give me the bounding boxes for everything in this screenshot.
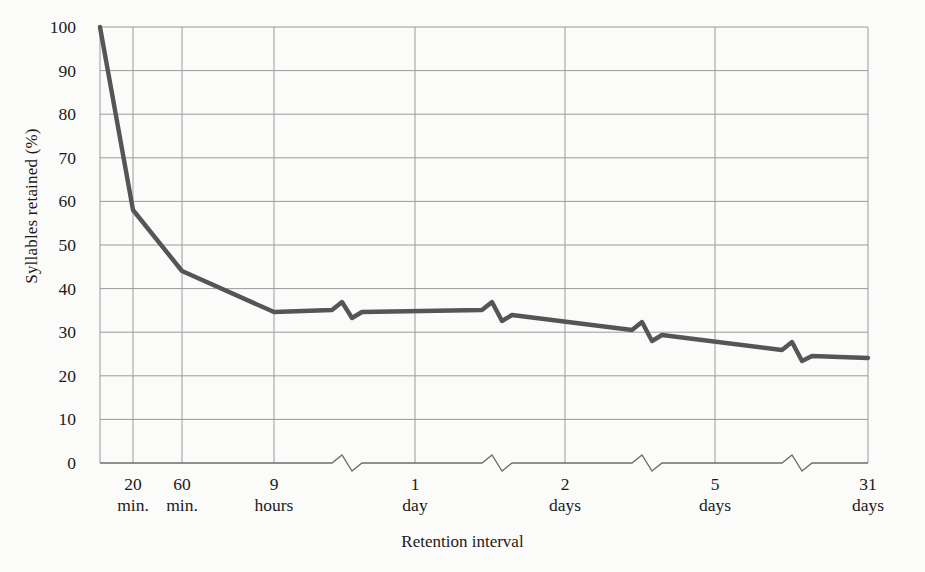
x-axis-with-breaks bbox=[100, 455, 868, 471]
x-tick-9-hours-unit: hours bbox=[230, 495, 318, 516]
x-tick-2-days-unit: days bbox=[525, 495, 605, 516]
x-tick-5-days: 5 days bbox=[675, 474, 755, 515]
x-tick-5-days-unit: days bbox=[675, 495, 755, 516]
horizontal-gridlines bbox=[100, 27, 868, 419]
x-tick-1-day-value: 1 bbox=[375, 474, 455, 495]
x-tick-31-days-unit: days bbox=[828, 495, 908, 516]
x-axis-title: Retention interval bbox=[0, 532, 925, 552]
x-tick-60-min-value: 60 bbox=[152, 474, 212, 495]
x-tick-60-min-unit: min. bbox=[152, 495, 212, 516]
x-tick-9-hours: 9 hours bbox=[230, 474, 318, 515]
x-tick-31-days: 31 days bbox=[828, 474, 908, 515]
x-tick-60-min: 60 min. bbox=[152, 474, 212, 515]
x-tick-9-hours-value: 9 bbox=[230, 474, 318, 495]
retention-curve bbox=[100, 27, 868, 361]
x-tick-31-days-value: 31 bbox=[828, 474, 908, 495]
forgetting-curve-figure: Syllables retained (%) 100 90 80 70 60 5… bbox=[0, 0, 925, 572]
x-tick-2-days: 2 days bbox=[525, 474, 605, 515]
x-tick-2-days-value: 2 bbox=[525, 474, 605, 495]
x-tick-1-day: 1 day bbox=[375, 474, 455, 515]
x-tick-1-day-unit: day bbox=[375, 495, 455, 516]
x-tick-5-days-value: 5 bbox=[675, 474, 755, 495]
